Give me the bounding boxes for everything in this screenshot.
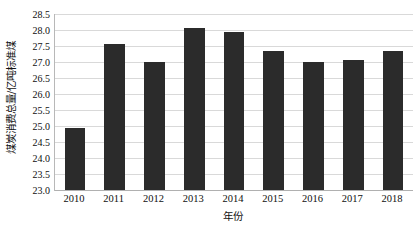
- y-axis-tick-label: 27.5: [20, 41, 50, 52]
- gridline: [55, 190, 413, 191]
- y-axis-title: 煤炭消费总量/亿吨标准煤: [0, 0, 22, 195]
- y-axis-tick-label: 27.0: [20, 57, 50, 68]
- y-axis-title-label: 煤炭消费总量/亿吨标准煤: [4, 41, 19, 155]
- y-axis-tick-label: 25.5: [20, 105, 50, 116]
- x-axis-tick-label: 2016: [302, 192, 323, 206]
- y-axis-tick-label: 28.0: [20, 25, 50, 36]
- y-axis-tick-label: 23.0: [20, 185, 50, 196]
- bar: [224, 32, 245, 190]
- bar: [65, 128, 86, 190]
- y-axis-tick-label: 24.0: [20, 153, 50, 164]
- y-axis-tick-labels: 23.023.524.024.525.025.526.026.527.027.5…: [20, 8, 50, 196]
- bar: [263, 51, 284, 190]
- bar: [383, 51, 404, 190]
- x-axis-tick-label: 2017: [342, 192, 363, 206]
- bar: [184, 28, 205, 190]
- y-axis-tick-label: 23.5: [20, 169, 50, 180]
- y-axis-tick-label: 28.5: [20, 9, 50, 20]
- x-axis-tick-label: 2011: [103, 192, 124, 206]
- y-axis-tick-label: 25.0: [20, 121, 50, 132]
- y-axis-tick-label: 26.0: [20, 89, 50, 100]
- x-axis-title: 年份: [54, 208, 412, 223]
- x-axis-tick-label: 2015: [262, 192, 283, 206]
- x-axis-tick-label: 2018: [382, 192, 403, 206]
- plot-area: [54, 14, 413, 191]
- x-axis-tick-label: 2010: [63, 192, 84, 206]
- bars-layer: [55, 14, 413, 190]
- bar: [104, 44, 125, 190]
- x-axis-tick-label: 2013: [183, 192, 204, 206]
- y-axis-tick-label: 26.5: [20, 73, 50, 84]
- y-axis-tick-label: 24.5: [20, 137, 50, 148]
- bar-chart: 煤炭消费总量/亿吨标准煤 23.023.524.024.525.025.526.…: [0, 0, 420, 233]
- bar: [343, 60, 364, 190]
- bar: [303, 62, 324, 190]
- x-axis-tick-label: 2014: [223, 192, 244, 206]
- x-axis-tick-labels: 201020112012201320142015201620172018: [54, 192, 412, 208]
- bar: [144, 62, 165, 190]
- x-axis-tick-label: 2012: [143, 192, 164, 206]
